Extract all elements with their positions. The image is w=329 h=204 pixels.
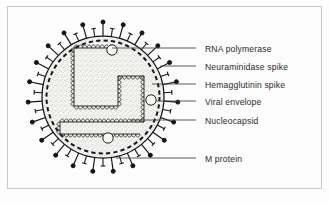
neuraminidase-spike [142, 43, 147, 49]
hemagglutinin-head [168, 61, 172, 65]
neuraminidase-head [82, 163, 86, 164]
neuraminidase-head [170, 109, 171, 114]
neuraminidase-spike [42, 125, 49, 129]
hemagglutinin-head [172, 120, 176, 124]
hemagglutinin-head [40, 138, 44, 142]
neuraminidase-spike [94, 29, 95, 37]
hemagglutinin-head [162, 138, 166, 142]
hemagglutinin-head [156, 44, 160, 48]
neuraminidase-spike [163, 109, 171, 111]
label-nucleocapsid: Nucleocapsid [205, 116, 258, 126]
neuraminidase-head [110, 28, 115, 29]
neuraminidase-spike [59, 43, 64, 49]
label-viral-envelope: Viral envelope [205, 97, 261, 107]
hemagglutinin-head [131, 164, 135, 168]
rna-polymerase-icon [103, 133, 113, 143]
hemagglutinin-head [148, 153, 152, 157]
virus-diagram-svg [0, 0, 329, 204]
neuraminidase-spike [35, 109, 43, 111]
neuraminidase-spike [119, 156, 121, 164]
neuraminidase-spike [67, 149, 71, 156]
hemagglutinin-head [46, 44, 50, 48]
influenza-virus-figure: RNA polymeraseNeuraminidase spikeHemaggl… [0, 0, 329, 204]
neuraminidase-spike [34, 92, 42, 93]
neuraminidase-spike [153, 57, 160, 62]
rna-polymerase-icon [107, 45, 117, 55]
neuraminidase-spike [47, 57, 54, 62]
neuraminidase-head [35, 109, 36, 114]
hemagglutinin-head [54, 153, 58, 157]
hemagglutinin-head [71, 164, 75, 168]
rna-polymerase-icon [146, 95, 156, 105]
neuraminidase-head [37, 72, 39, 76]
neuraminidase-spike [160, 74, 168, 77]
hemagglutinin-head [101, 20, 105, 24]
label-m-protein: M protein [205, 154, 242, 164]
hemagglutinin-head [62, 31, 66, 35]
neuraminidase-head [45, 55, 48, 59]
label-neuraminidase: Neuraminidase spike [205, 62, 288, 72]
neuraminidase-spike [164, 92, 172, 93]
hemagglutinin-head [28, 80, 32, 84]
neuraminidase-spike [38, 74, 46, 77]
label-hemagglutinin: Hemagglutinin spike [205, 80, 285, 90]
neuraminidase-spike [53, 139, 59, 144]
label-rna-polymerase: RNA polymerase [205, 44, 272, 54]
hemagglutinin-head [91, 169, 95, 173]
neuraminidase-spike [127, 34, 130, 41]
neuraminidase-head [158, 55, 161, 59]
neuraminidase-spike [76, 34, 79, 41]
neuraminidase-head [91, 28, 96, 29]
neuraminidase-spike [148, 139, 154, 144]
hemagglutinin-head [26, 100, 30, 104]
neuraminidase-spike [84, 156, 86, 164]
hemagglutinin-head [111, 169, 115, 173]
neuraminidase-spike [157, 125, 164, 129]
hemagglutinin-head [30, 120, 34, 124]
neuraminidase-spike [111, 29, 112, 37]
hemagglutinin-head [81, 23, 85, 27]
hemagglutinin-head [34, 61, 38, 65]
hemagglutinin-head [121, 23, 125, 27]
neuraminidase-head [167, 72, 169, 76]
hemagglutinin-head [140, 31, 144, 35]
neuraminidase-head [119, 163, 123, 164]
neuraminidase-spike [135, 149, 139, 156]
hemagglutinin-head [174, 80, 178, 84]
